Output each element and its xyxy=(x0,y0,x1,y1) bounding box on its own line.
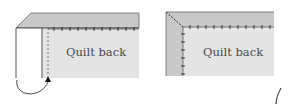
binding-strip-top xyxy=(16,13,139,28)
left-quilt-back-label: Quilt back xyxy=(66,45,126,59)
folded-binding xyxy=(16,28,42,78)
fold-arrow-icon xyxy=(17,80,48,94)
pen-mark xyxy=(276,88,281,104)
right-quilt-back-label: Quilt back xyxy=(203,45,263,59)
